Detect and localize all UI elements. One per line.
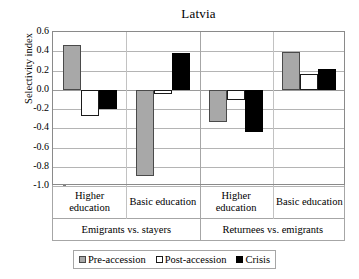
white-square-icon bbox=[156, 256, 163, 263]
y-tick-label: 0.2 bbox=[19, 65, 49, 75]
black-square-icon bbox=[236, 256, 243, 263]
y-tick-label: -0.4 bbox=[19, 122, 49, 132]
bar-crisis-group-3 bbox=[245, 90, 263, 132]
x-category-label-text: Basic education bbox=[274, 196, 345, 208]
bar-post-accession-group-4 bbox=[300, 74, 318, 89]
category-divider bbox=[126, 185, 127, 219]
chart-legend: Pre-accessionPost-accessionCrisis bbox=[73, 250, 276, 269]
bar-post-accession-group-1 bbox=[81, 90, 99, 116]
y-tick-label: 0.0 bbox=[19, 84, 49, 94]
y-axis-tick-labels: 0.60.40.20.0-0.2-0.4-0.6-0.8-1.0 bbox=[16, 0, 49, 279]
legend-item-label: Crisis bbox=[245, 254, 270, 265]
legend-item-label: Pre-accession bbox=[88, 254, 146, 265]
x-category-label: Basic education bbox=[273, 185, 346, 219]
y-tick-label: -1.0 bbox=[19, 180, 49, 190]
group-separator bbox=[200, 32, 201, 184]
page-title: Latvia bbox=[52, 6, 345, 22]
plot-area bbox=[52, 31, 345, 185]
y-tick-label: 0.6 bbox=[19, 26, 49, 36]
legend-item[interactable]: Post-accession bbox=[156, 254, 227, 265]
gridline bbox=[53, 128, 344, 129]
bar-post-accession-group-3 bbox=[227, 90, 245, 101]
y-tick-label: 0.4 bbox=[19, 45, 49, 55]
x-category-label: Higher education bbox=[200, 185, 273, 219]
x-category-label-text: Basic education bbox=[127, 196, 198, 208]
bar-crisis-group-4 bbox=[318, 69, 336, 90]
group-label-band: Emigrants vs. stayersReturnees vs. emigr… bbox=[52, 219, 345, 241]
x-group-label: Emigrants vs. stayers bbox=[53, 219, 200, 241]
bar-pre-accession-group-1 bbox=[63, 45, 81, 89]
y-tick-label: -0.8 bbox=[19, 161, 49, 171]
bar-crisis-group-1 bbox=[99, 90, 117, 109]
bar-post-accession-group-2 bbox=[154, 90, 172, 94]
y-tick-label: -0.2 bbox=[19, 103, 49, 113]
legend-item-label: Post-accession bbox=[165, 254, 227, 265]
legend-item[interactable]: Crisis bbox=[236, 254, 270, 265]
gridline bbox=[53, 167, 344, 168]
gray-square-icon bbox=[79, 256, 86, 263]
x-category-label: Basic education bbox=[126, 185, 199, 219]
x-group-label: Returnees vs. emigrants bbox=[200, 219, 347, 241]
x-category-label-text: Higher education bbox=[201, 190, 272, 214]
gridline bbox=[53, 148, 344, 149]
bar-pre-accession-group-4 bbox=[282, 52, 300, 90]
chart-figure: Latvia Selectivity index 0.60.40.20.0-0.… bbox=[0, 0, 359, 279]
category-divider bbox=[200, 185, 201, 219]
category-label-band: Higher educationBasic educationHigher ed… bbox=[52, 185, 345, 219]
category-divider bbox=[273, 185, 274, 219]
bar-pre-accession-group-2 bbox=[136, 90, 154, 177]
bar-crisis-group-2 bbox=[172, 53, 190, 90]
group-separator bbox=[273, 32, 274, 184]
group-separator bbox=[126, 32, 127, 184]
group-label-divider bbox=[200, 219, 201, 241]
y-tick-label: -0.6 bbox=[19, 142, 49, 152]
legend-item[interactable]: Pre-accession bbox=[79, 254, 146, 265]
x-category-label: Higher education bbox=[53, 185, 126, 219]
bar-pre-accession-group-3 bbox=[209, 90, 227, 123]
x-category-label-text: Higher education bbox=[54, 190, 125, 214]
